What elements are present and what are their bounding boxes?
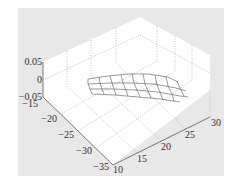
chart-figure: 0.05 0 −0.05 −15 −20 −25 −30 −35 10 15 2… xyxy=(0,0,236,184)
x-tick-label: 20 xyxy=(161,141,171,152)
x-tick-label: 10 xyxy=(113,164,123,175)
y-tick-label: −20 xyxy=(41,113,57,124)
y-tick-label: −25 xyxy=(58,129,74,140)
y-tick-label: −35 xyxy=(93,161,109,172)
y-tick-label: −30 xyxy=(76,145,92,156)
z-tick-label: 0.05 xyxy=(25,56,43,67)
y-tick-label: −15 xyxy=(22,98,38,109)
x-tick-label: 15 xyxy=(137,153,147,164)
x-tick-label: 25 xyxy=(185,129,195,140)
x-tick-label: 30 xyxy=(211,117,221,128)
z-tick-label: 0 xyxy=(37,74,42,85)
